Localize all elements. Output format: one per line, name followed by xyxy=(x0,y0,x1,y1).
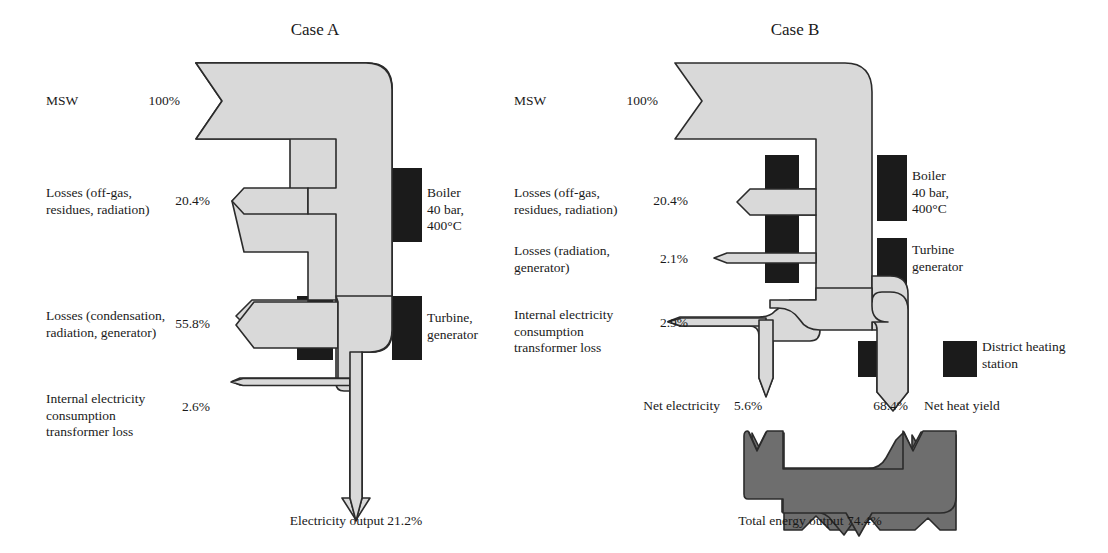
case-b-equipment-label-district-heating: District heating station xyxy=(982,339,1066,372)
case-b-loss-value-3: 2.9% xyxy=(618,315,688,332)
case-a-loss-label-1: Losses (off-gas, residues, radiation) xyxy=(46,185,149,218)
case-b-loss-value-1: 20.4% xyxy=(618,193,688,210)
case-a-turbine-block-right xyxy=(392,296,422,360)
case-a-output-label: Electricity output 21.2% xyxy=(236,513,476,530)
case-b-equipment-label-turbine: Turbine generator xyxy=(912,242,963,275)
case-b-dh-block-right xyxy=(943,341,977,377)
case-b-output-value-heat: 68.4% xyxy=(838,398,908,415)
case-b-title: Case B xyxy=(680,22,910,39)
case-a-loss-arrow-1 xyxy=(232,188,308,214)
case-a-loss-arrow-3 xyxy=(231,379,350,386)
case-b-loss-value-2: 2.1% xyxy=(618,251,688,268)
case-a-title: Case A xyxy=(200,22,430,39)
case-b-boiler-block-right xyxy=(877,155,907,221)
case-b-input-label: MSW xyxy=(514,93,546,110)
case-b-net-electricity-stem xyxy=(759,320,773,397)
case-b-loss-arrow-1 xyxy=(737,189,816,215)
case-b-loss-label-1: Losses (off-gas, residues, radiation) xyxy=(514,185,617,218)
figure-canvas: .flowL{fill:#d9d9d9;stroke:#2b2b2b;strok… xyxy=(0,0,1108,553)
case-b-equipment-label-boiler: Boiler 40 bar, 400°C xyxy=(912,168,949,218)
case-a-electricity-output-stem xyxy=(350,352,362,521)
case-b-output-label-electricity: Net electricity xyxy=(580,398,720,415)
case-a-loss-value-2: 55.8% xyxy=(140,316,210,333)
case-a-trunk-lower xyxy=(336,296,392,520)
case-b-flow-group xyxy=(668,63,977,536)
case-b-total-label: Total energy output 74.4% xyxy=(670,513,950,530)
case-a-input-label: MSW xyxy=(46,93,78,110)
case-b-loss-label-3: Internal electricity consumption transfo… xyxy=(514,307,613,357)
case-b-input-value: 100% xyxy=(578,93,658,110)
case-a-flow-group xyxy=(196,63,422,521)
case-a-loss-label-3: Internal electricity consumption transfo… xyxy=(46,391,145,441)
case-a-input-value: 100% xyxy=(100,93,180,110)
case-b-loss-label-2: Losses (radiation, generator) xyxy=(514,243,610,276)
case-a-boiler-block-right xyxy=(392,168,422,242)
sankey-diagram-svg: .flowL{fill:#d9d9d9;stroke:#2b2b2b;strok… xyxy=(0,0,1108,553)
case-b-output-label-heat: Net heat yield xyxy=(924,398,1000,415)
case-a-loss-value-3: 2.6% xyxy=(140,399,210,416)
case-a-loss-value-1: 20.4% xyxy=(140,193,210,210)
case-a-equipment-label-boiler: Boiler 40 bar, 400°C xyxy=(427,185,464,235)
case-b-output-value-electricity: 5.6% xyxy=(734,398,762,415)
case-a-loss-arrow-2 xyxy=(236,302,338,348)
case-a-equipment-label-turbine: Turbine, generator xyxy=(427,310,478,343)
case-b-loss-arrow-2 xyxy=(714,253,816,263)
